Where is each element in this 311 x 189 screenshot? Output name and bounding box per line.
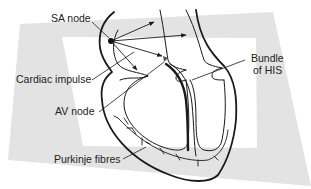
label-purkinje-fibres: Purkinje fibres [54,153,121,165]
heart-conduction-diagram: SA node Cardiac impulse AV node Purkinje… [0,0,311,189]
label-bundle-of-his-line2: of HIS [253,64,282,76]
label-sa-node: SA node [51,12,91,24]
label-bundle-of-his-line1: Bundle [251,52,284,64]
diagram-figure [0,0,311,189]
label-av-node: AV node [55,105,95,117]
label-cardiac-impulse: Cardiac impulse [16,73,91,85]
